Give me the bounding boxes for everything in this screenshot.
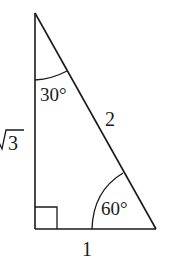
radicand: 3 [8, 132, 18, 154]
triangle-diagram: 30° 60° 2 1 3 [0, 0, 173, 263]
angle-arc-30 [35, 71, 67, 80]
angle-label-30: 30° [40, 84, 67, 105]
vertical-leg-label: 3 [0, 130, 24, 154]
hypotenuse [35, 13, 156, 229]
right-angle-marker [35, 207, 57, 229]
hypotenuse-label: 2 [105, 108, 115, 130]
angle-label-60: 60° [101, 198, 128, 219]
triangle [35, 13, 156, 229]
base-label: 1 [82, 238, 92, 260]
